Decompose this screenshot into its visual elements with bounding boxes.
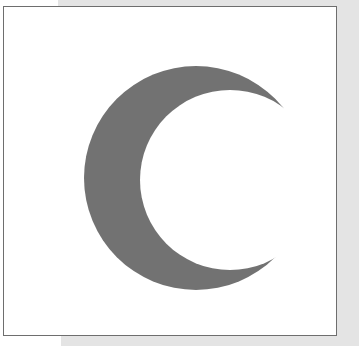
crescent-shape: [0, 0, 359, 346]
crescent-moon-icon: [0, 0, 359, 346]
